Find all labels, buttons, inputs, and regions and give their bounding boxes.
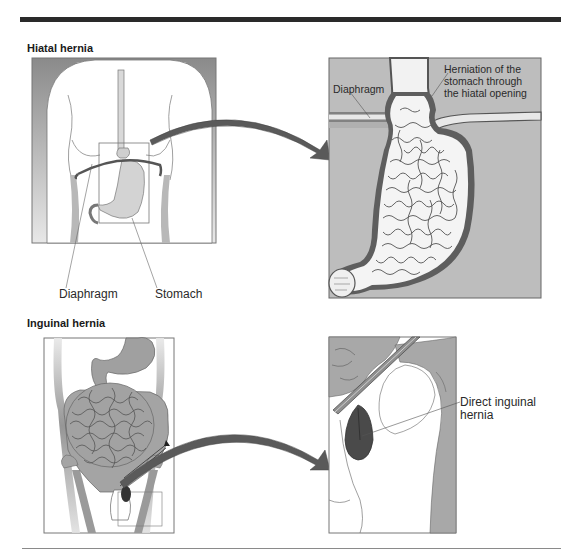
label-herniation-line3: the hiatal opening — [444, 87, 527, 99]
section-title-inguinal: Inguinal hernia — [27, 317, 105, 329]
label-diaphragm-left: Diaphragm — [59, 288, 118, 301]
label-stomach-left: Stomach — [155, 288, 202, 301]
label-diaphragm-right: Diaphragm — [333, 83, 384, 95]
label-herniation-line2: stomach through — [444, 75, 522, 87]
label-herniation-line1: Herniation of the — [444, 63, 521, 75]
bottom-rule — [22, 548, 561, 549]
inguinal-detail-panel — [329, 337, 460, 533]
label-direct-inguinal-line2: hernia — [460, 409, 493, 422]
inguinal-body-panel — [44, 338, 174, 534]
hiatal-body-panel — [32, 58, 216, 288]
